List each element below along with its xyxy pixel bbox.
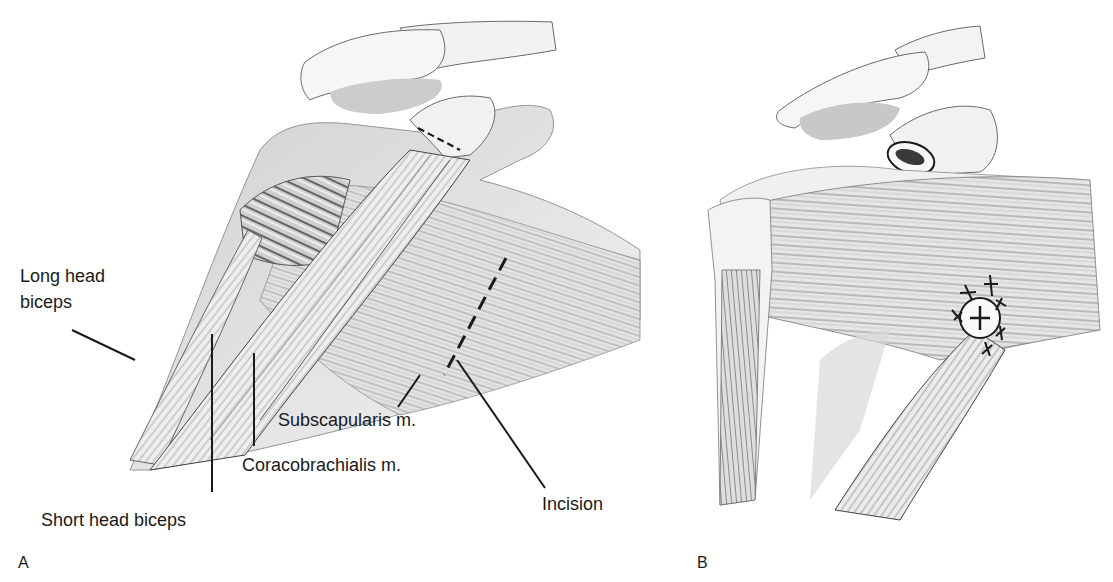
label-coracobrachialis: Coracobrachialis m. [242,454,401,476]
figure-panel-a: Long head biceps Short head biceps Corac… [0,0,660,582]
label-short-head-biceps: Short head biceps [41,509,186,531]
panel-letter-a: A [18,554,29,572]
label-long-head-biceps-line2: biceps [20,291,105,313]
label-incision: Incision [542,493,603,515]
figure-panel-b: B [660,0,1113,582]
shoulder-anatomy-illustration-b [660,0,1113,582]
label-long-head-biceps: Long head biceps [20,265,105,313]
panel-letter-b: B [697,554,708,572]
label-subscapularis: Subscapularis m. [278,409,416,431]
label-long-head-biceps-line1: Long head [20,265,105,287]
leader-line-long-head-biceps [72,330,135,360]
